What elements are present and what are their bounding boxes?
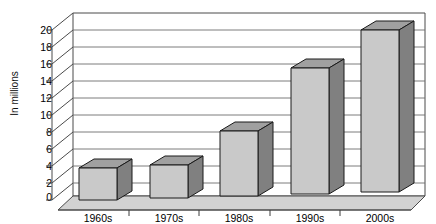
x-tick-label: 1980s bbox=[212, 212, 266, 224]
y-axis-ticks bbox=[46, 30, 52, 200]
x-tick-label: 2000s bbox=[353, 212, 407, 224]
x-tick-label: 1990s bbox=[283, 212, 337, 224]
plot-area bbox=[0, 0, 436, 224]
bar-1990s bbox=[291, 59, 344, 194]
bar-chart: In millions 20 18 16 14 12 10 8 6 4 2 0 bbox=[0, 0, 436, 224]
x-tick-label: 1960s bbox=[71, 212, 125, 224]
bar-1960s bbox=[79, 159, 132, 200]
bar-2000s bbox=[361, 21, 414, 192]
bar-1980s bbox=[220, 122, 273, 196]
left-wall-perspective bbox=[52, 13, 73, 200]
bar-1970s bbox=[150, 156, 203, 198]
x-tick-label: 1970s bbox=[142, 212, 196, 224]
